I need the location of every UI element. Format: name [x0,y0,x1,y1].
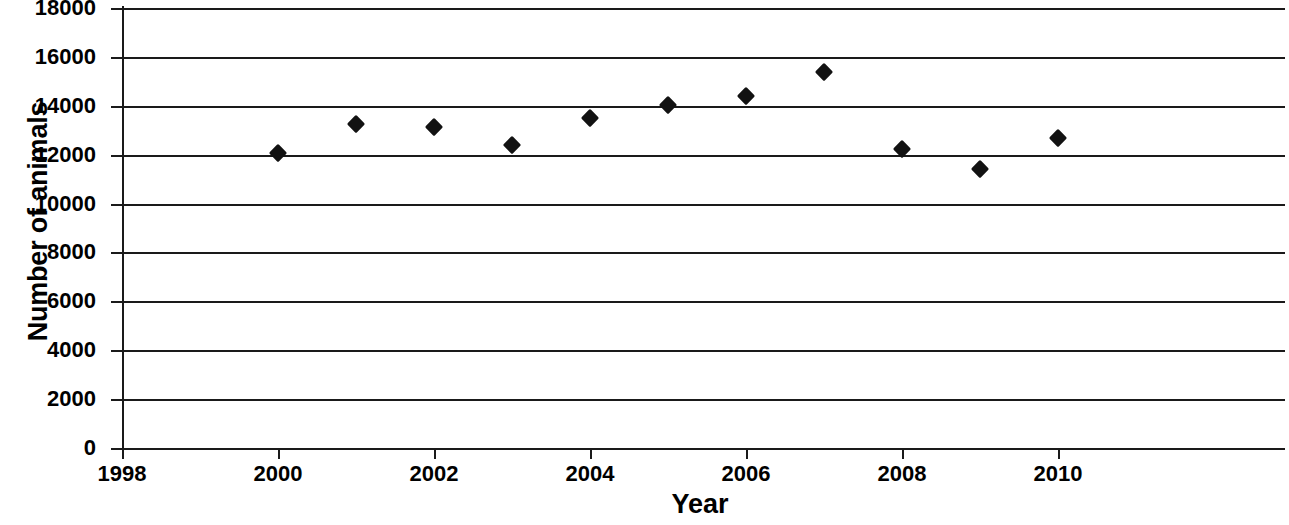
gridline [122,252,1285,254]
x-axis-tick-mark [1058,448,1060,459]
gridline [122,8,1285,10]
x-axis-tick-mark [434,448,436,459]
x-axis-tick-mark [746,448,748,459]
gridline [122,57,1285,59]
y-axis-tick-label: 2000 [4,386,96,412]
x-axis-tick-label: 1998 [77,461,167,487]
gridline [122,350,1285,352]
gridline [122,204,1285,206]
x-axis-tick-label: 2004 [545,461,635,487]
scatter-chart: Number of animals 0200040006000800010000… [0,0,1289,525]
gridline [122,155,1285,157]
y-axis-tick-label: 6000 [4,288,96,314]
x-axis-tick-mark [122,448,124,459]
plot-area [122,8,1285,448]
x-axis-tick-label: 2006 [701,461,791,487]
gridline [122,301,1285,303]
data-point [659,95,677,113]
data-point [815,62,833,80]
x-axis-tick-label: 2000 [233,461,323,487]
data-point [971,160,989,178]
y-axis-tick-label: 16000 [4,44,96,70]
x-axis-tick-label: 2010 [1013,461,1103,487]
x-axis-tick-mark [902,448,904,459]
y-axis-tick-label: 4000 [4,337,96,363]
gridline [122,106,1285,108]
y-axis-tick-label: 14000 [4,93,96,119]
data-point [347,115,365,133]
x-axis-tick-mark [278,448,280,459]
data-point [269,144,287,162]
data-point [1049,128,1067,146]
y-axis-tick-label: 10000 [4,191,96,217]
y-axis-tick-label: 8000 [4,239,96,265]
data-point [581,109,599,127]
y-axis-tick-label: 18000 [4,0,96,21]
x-axis-tick-label: 2008 [857,461,947,487]
data-point [737,87,755,105]
data-point [503,136,521,154]
gridline [122,448,1285,450]
x-axis-title: Year [600,489,800,520]
x-axis-tick-label: 2002 [389,461,479,487]
y-axis-tick-label: 12000 [4,142,96,168]
gridline [122,399,1285,401]
y-axis-tick-label: 0 [4,435,96,461]
x-axis-tick-mark [590,448,592,459]
data-point [425,117,443,135]
